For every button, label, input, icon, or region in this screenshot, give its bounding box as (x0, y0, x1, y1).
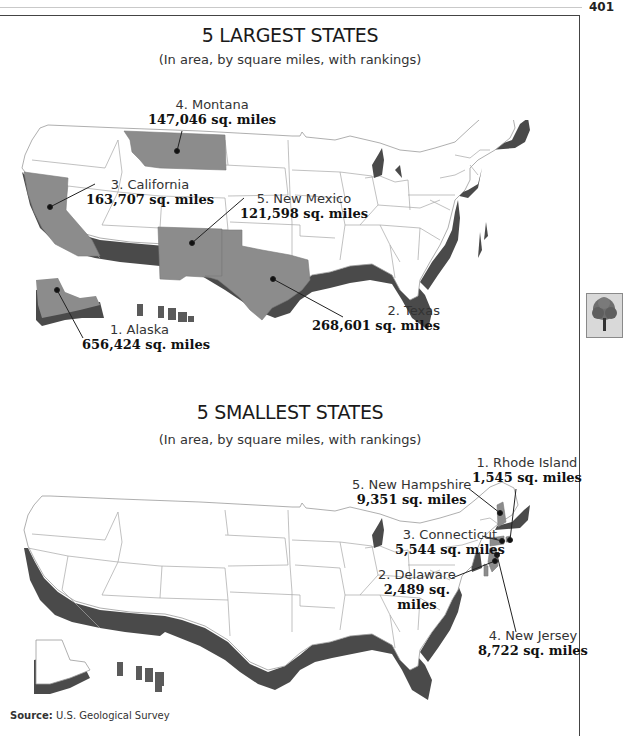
label-alaska: 1. Alaska 656,424 sq. miles (82, 322, 210, 352)
smallest-subtitle: (In area, by square miles, with rankings… (0, 432, 580, 447)
state-new-mexico (158, 227, 222, 280)
source-text: U.S. Geological Survey (56, 710, 170, 721)
largest-title: 5 LARGEST STATES (0, 24, 580, 46)
label-new-jersey: 4. New Jersey 8,722 sq. miles (478, 628, 588, 658)
source-label: Source: (10, 710, 53, 721)
page-number: 401 (589, 0, 614, 14)
hawaii-shape (137, 304, 194, 322)
label-connecticut: 3. Connecticut 5,544 sq. miles (395, 527, 505, 557)
label-new-hampshire: 5. New Hampshire 9,351 sq. miles (352, 477, 471, 507)
source-note: Source: U.S. Geological Survey (10, 710, 170, 721)
alaska-shape (34, 640, 90, 694)
label-new-mexico: 5. New Mexico 121,598 sq. miles (240, 191, 368, 221)
tree-icon (586, 293, 623, 338)
state-delaware (484, 564, 488, 576)
label-rhode-island: 1. Rhode Island 1,545 sq. miles (472, 455, 582, 485)
label-montana: 4. Montana 147,046 sq. miles (148, 97, 276, 127)
hawaii-shape (117, 662, 164, 692)
label-delaware: 2. Delaware 2,489 sq. miles (378, 567, 456, 612)
label-texas: 2. Texas 268,601 sq. miles (312, 303, 440, 333)
smallest-states-map (0, 480, 580, 700)
smallest-title: 5 SMALLEST STATES (0, 401, 580, 423)
largest-subtitle: (In area, by square miles, with rankings… (0, 52, 580, 67)
header-rule (0, 7, 582, 8)
label-california: 3. California 163,707 sq. miles (86, 177, 214, 207)
alaska-shape (36, 278, 104, 326)
